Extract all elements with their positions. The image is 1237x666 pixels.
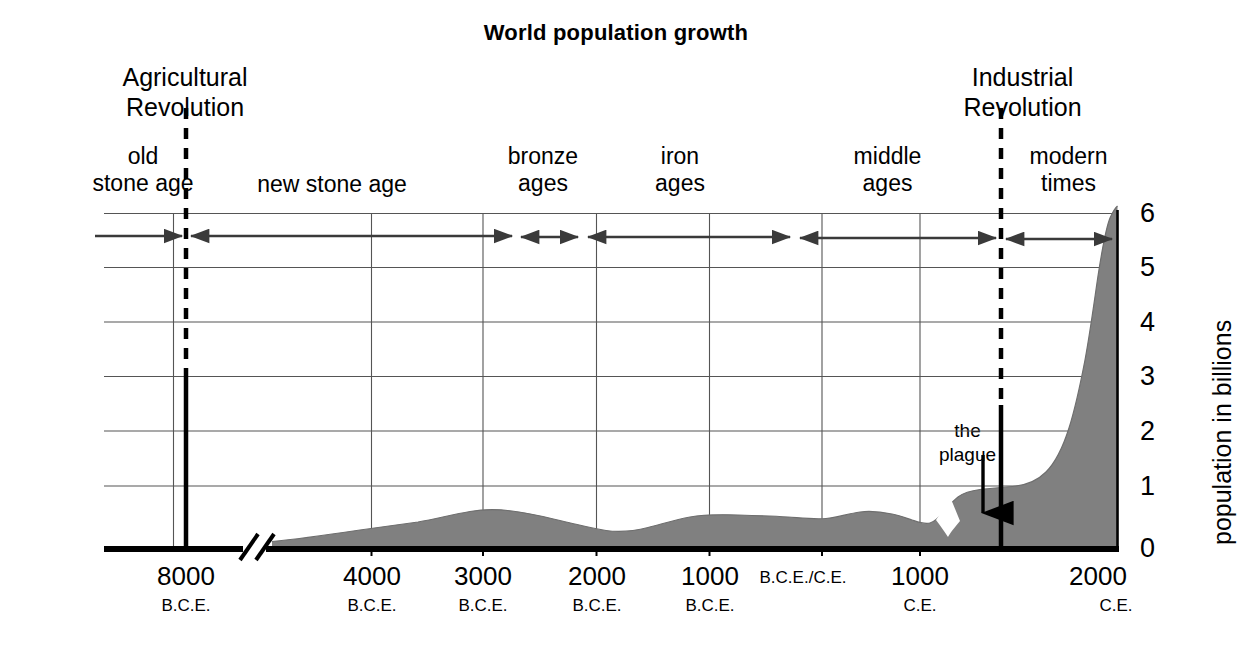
horizontal-gridlines: [104, 214, 1118, 487]
era-span-arrows: [95, 236, 1112, 239]
population-area: [272, 206, 1118, 549]
